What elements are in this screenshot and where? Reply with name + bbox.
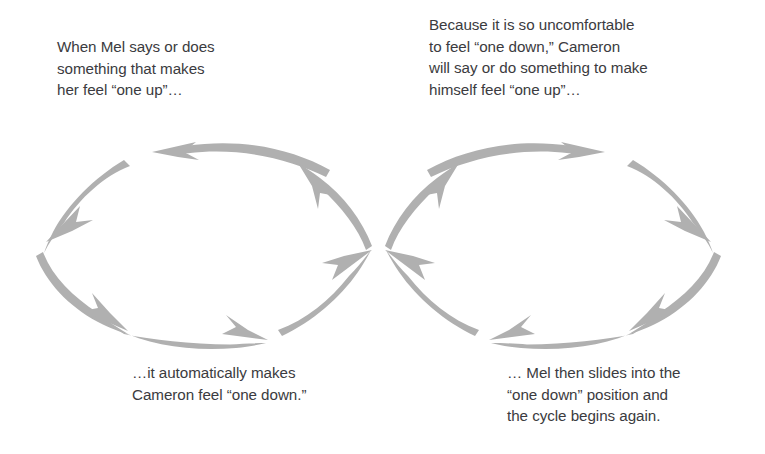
right-loop-arrow-lower-right: [629, 252, 721, 334]
right-loop: [385, 142, 721, 349]
right-loop-arrow-left-upper: [385, 163, 459, 250]
left-loop-arrow-bottom: [118, 315, 268, 349]
caption-bottom-left: …it automatically makes Cameron feel “on…: [132, 362, 402, 405]
right-loop-arrow-bottom: [489, 315, 639, 349]
diagram-page: When Mel says or does something that mak…: [0, 0, 765, 454]
right-loop-arrow-top: [427, 142, 605, 177]
left-loop: [36, 142, 372, 349]
left-loop-arrow-right-lower: [278, 250, 372, 336]
right-loop-arrow-left-lower: [385, 250, 479, 336]
left-loop-arrow-upper-left: [44, 160, 130, 253]
caption-top-left: When Mel says or does something that mak…: [57, 36, 317, 101]
caption-bottom-right: … Mel then slides into the “one down” po…: [507, 362, 757, 427]
caption-top-right: Because it is so uncomfortable to feel “…: [429, 14, 729, 100]
left-loop-arrow-right-upper: [298, 163, 372, 250]
right-loop-arrow-upper-right: [627, 160, 713, 253]
left-loop-arrow-lower-left: [36, 252, 128, 334]
left-loop-arrow-top: [152, 142, 330, 177]
